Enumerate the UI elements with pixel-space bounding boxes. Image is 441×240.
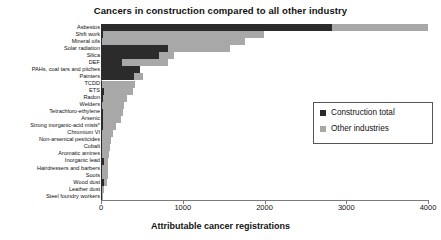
bar-row (101, 137, 111, 144)
bar-row (101, 109, 123, 116)
bar-row (101, 31, 264, 38)
bar-row (101, 66, 140, 73)
bar-row (101, 88, 133, 95)
bar-segment-other-industries (102, 151, 109, 158)
x-tick-label: 4000 (420, 203, 437, 212)
bar-row (101, 165, 108, 172)
bar-segment-other-industries (102, 186, 104, 193)
legend-label: Construction total (331, 108, 395, 117)
category-label: Arsenic (0, 115, 100, 121)
bar-segment-other-industries (102, 172, 108, 179)
bar-segment-other-industries (134, 73, 143, 80)
bar-row (101, 193, 103, 200)
bar-row (101, 45, 230, 52)
category-label: Painters (0, 73, 100, 79)
legend-item: Other industries (320, 124, 426, 133)
category-label: Radon (0, 94, 100, 100)
bar-row (101, 151, 109, 158)
bar-segment-other-industries (104, 179, 107, 186)
bar-row (101, 123, 116, 130)
bar-segment-other-industries (103, 95, 128, 102)
chart-title: Cancers in construction compared to all … (0, 5, 441, 16)
bar-segment-other-industries (102, 137, 111, 144)
bar-segment-construction-total (101, 45, 168, 52)
category-label: Asbestos (0, 24, 100, 30)
bar-row (101, 95, 127, 102)
category-label: Leather dust (0, 186, 100, 192)
x-tick-label: 2000 (256, 203, 273, 212)
bar-row (101, 130, 113, 137)
bar-segment-other-industries (103, 31, 265, 38)
category-label: Inorganic lead (0, 157, 100, 163)
bar-row (101, 38, 245, 45)
category-label: Welders (0, 101, 100, 107)
bar-segment-other-industries (332, 24, 428, 31)
category-label: Strong inorganic-acid mists* (0, 122, 100, 128)
x-tick-label: 0 (99, 203, 103, 212)
bar-row (101, 52, 174, 59)
chart-legend: Construction total Other industries (313, 102, 433, 144)
legend-item: Construction total (320, 108, 426, 117)
bar-segment-construction-total (101, 24, 332, 31)
bar-row (101, 158, 108, 165)
bar-segment-other-industries (103, 123, 116, 130)
category-label: Non-arsenical pesticides (0, 136, 100, 142)
category-label: Cobalt (0, 143, 100, 149)
bar-row (101, 59, 168, 66)
category-label: Soots (0, 172, 100, 178)
category-label: Aromatic amines (0, 150, 100, 156)
bar-row (101, 73, 143, 80)
bar-row (101, 81, 135, 88)
bar-segment-construction-total (101, 73, 134, 80)
category-label: PAHs, coal tars and pitches (0, 66, 100, 72)
category-label: Silica (0, 52, 100, 58)
bar-row (101, 172, 108, 179)
bar-segment-construction-total (101, 52, 159, 59)
bar-segment-other-industries (104, 158, 108, 165)
bar-segment-other-industries (159, 52, 174, 59)
bar-segment-other-industries (102, 81, 136, 88)
category-label: Steel foundry workers (0, 193, 100, 199)
x-tick-label: 3000 (338, 203, 355, 212)
legend-swatch-other-industries (320, 126, 326, 132)
bar-segment-other-industries (102, 144, 110, 151)
category-label: Wood dust (0, 179, 100, 185)
bar-segment-other-industries (103, 109, 123, 116)
category-label: Hairdressers and barbers (0, 165, 100, 171)
bar-row (101, 116, 121, 123)
bar-row (101, 102, 124, 109)
category-label: DEF (0, 59, 100, 65)
bar-segment-other-industries (103, 116, 120, 123)
bar-segment-other-industries (102, 102, 124, 109)
bar-segment-other-industries (102, 130, 113, 137)
category-label: ETS (0, 87, 100, 93)
bar-segment-construction-total (101, 59, 122, 66)
bar-segment-other-industries (122, 59, 168, 66)
category-label: TCDD (0, 80, 100, 86)
bar-segment-other-industries (168, 45, 230, 52)
bar-segment-other-industries (102, 165, 108, 172)
category-label: Mineral oils (0, 38, 100, 44)
x-axis-label: Attributable cancer registrations (0, 221, 441, 231)
bar-segment-construction-total (101, 66, 140, 73)
bar-segment-other-industries (104, 88, 133, 95)
category-label: Solar radiation (0, 45, 100, 51)
category-label: Tetrachloro-ethylene (0, 108, 100, 114)
bar-segment-other-industries (102, 38, 245, 45)
bar-segment-other-industries (102, 193, 103, 200)
bar-row (101, 179, 107, 186)
category-label: Chromium VI (0, 129, 100, 135)
bar-row (101, 144, 110, 151)
legend-swatch-construction-total (320, 110, 326, 116)
bar-chart: Cancers in construction compared to all … (0, 0, 441, 240)
category-axis-labels: AsbestosShift workMineral oilsSolar radi… (0, 24, 100, 200)
legend-label: Other industries (331, 124, 389, 133)
bar-row (101, 186, 104, 193)
bar-row (101, 24, 428, 31)
category-label: Shift work (0, 31, 100, 37)
x-tick-label: 1000 (174, 203, 191, 212)
